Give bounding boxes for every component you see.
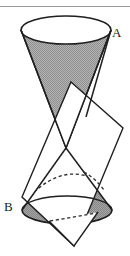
upper-cone-rim-ellipse <box>21 16 111 44</box>
label-a: A <box>112 25 122 40</box>
label-b: B <box>4 199 13 214</box>
figure-canvas: A B <box>0 0 130 256</box>
cone-plane-diagram: A B <box>0 0 130 256</box>
